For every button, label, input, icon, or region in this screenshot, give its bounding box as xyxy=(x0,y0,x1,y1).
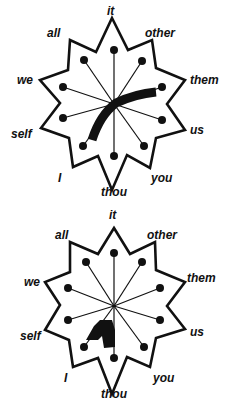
label-i: I xyxy=(58,171,62,185)
label-other: other xyxy=(147,228,178,242)
label-it: it xyxy=(109,208,117,222)
label-all: all xyxy=(55,228,69,242)
label-other: other xyxy=(145,26,176,40)
pronoun-wheels: it other them us you thou I self we all xyxy=(0,0,234,405)
label-it: it xyxy=(107,4,115,18)
label-you: you xyxy=(150,171,173,185)
label-self: self xyxy=(20,329,42,343)
label-self: self xyxy=(11,127,33,141)
label-i: I xyxy=(64,371,68,385)
label-thou: thou xyxy=(101,387,128,401)
label-thou: thou xyxy=(101,185,128,199)
label-them: them xyxy=(187,271,216,285)
label-you: you xyxy=(152,371,175,385)
bottom-wheel: it other them us you thou I self we all xyxy=(20,208,216,401)
label-all: all xyxy=(47,26,61,40)
label-we: we xyxy=(17,73,33,87)
top-wheel: it other them us you thou I self we all xyxy=(11,4,219,199)
label-them: them xyxy=(190,73,219,87)
thick-blot xyxy=(86,320,115,348)
label-we: we xyxy=(24,275,40,289)
thick-stroke xyxy=(92,92,156,140)
label-us: us xyxy=(190,325,204,339)
label-us: us xyxy=(190,123,204,137)
